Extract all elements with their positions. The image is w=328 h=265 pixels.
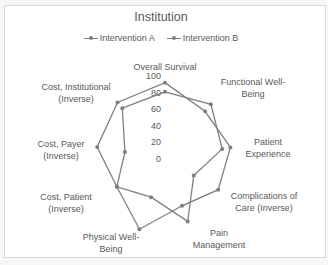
data-point	[192, 174, 196, 178]
data-point	[115, 185, 119, 189]
axis-tick-label: 100	[146, 71, 161, 81]
data-point	[203, 109, 207, 113]
axis-tick-label: 40	[151, 121, 161, 131]
data-point	[95, 145, 99, 149]
data-point	[186, 219, 190, 223]
radar-plot: 020406080100Overall SurvivalFunctional W…	[0, 0, 328, 265]
data-point	[137, 227, 141, 231]
data-point	[163, 81, 167, 85]
category-label: Cost, Payer(Inverse)	[37, 139, 84, 161]
category-label: Cost, Patient(Inverse)	[40, 192, 92, 214]
data-point	[209, 102, 213, 106]
category-label: PatientExperience	[245, 137, 290, 159]
category-label: Overall Survival	[133, 62, 196, 72]
data-point	[123, 150, 127, 154]
category-label: Complications ofCare (Inverse)	[231, 191, 298, 213]
data-point	[163, 90, 167, 94]
data-point	[216, 188, 220, 192]
data-point	[116, 100, 120, 104]
category-label: Cost, Institutional(Inverse)	[41, 82, 110, 104]
category-label: Functional Well-Being	[221, 77, 285, 99]
category-label: PainManagement	[193, 228, 246, 250]
data-point	[120, 106, 124, 110]
data-point	[180, 204, 184, 208]
data-point	[149, 195, 153, 199]
axis-tick-label: 60	[151, 104, 161, 114]
category-label: Physical Well-Being	[83, 232, 139, 254]
axis-tick-label: 0	[156, 154, 161, 164]
data-point	[228, 145, 232, 149]
axis-tick-label: 20	[151, 137, 161, 147]
data-point	[220, 147, 224, 151]
